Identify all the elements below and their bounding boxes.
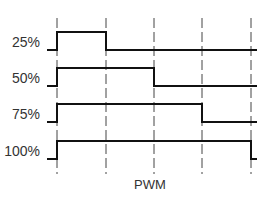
waveform-75-percent	[47, 104, 257, 122]
waveform-50-percent	[47, 68, 257, 86]
pwm-diagram	[0, 0, 272, 202]
label-duty-50: 50%	[0, 71, 40, 85]
period-markers	[57, 18, 251, 174]
label-duty-75: 75%	[0, 107, 40, 121]
label-duty-25: 25%	[0, 35, 40, 49]
axis-title-pwm: PWM	[125, 178, 175, 191]
waveform-25-percent	[47, 32, 257, 50]
pwm-signals	[47, 32, 257, 159]
waveform-100-percent	[47, 141, 257, 159]
label-duty-100: 100%	[0, 144, 40, 158]
